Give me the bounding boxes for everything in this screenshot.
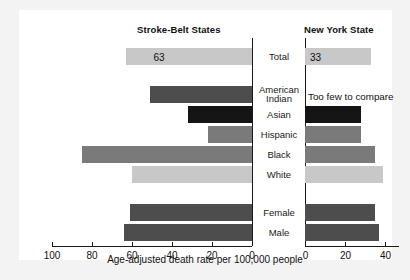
bar-right-asian xyxy=(305,106,361,123)
tick-left-60 xyxy=(132,242,133,246)
category-label-white: White xyxy=(253,170,305,180)
tick-left-40 xyxy=(172,242,173,246)
x-axis-right xyxy=(305,246,399,247)
bar-right-white xyxy=(305,166,383,183)
bar-right-female xyxy=(305,204,375,221)
tick-left-80 xyxy=(92,242,93,246)
bar-left-male xyxy=(124,224,252,241)
bar-value-right-total: 33 xyxy=(310,52,321,63)
category-label-line: Black xyxy=(253,150,305,160)
chart-plate: Stroke-Belt States New York State 100806… xyxy=(19,10,392,260)
category-label-total: Total xyxy=(253,52,305,62)
category-label-asian: Asian xyxy=(253,110,305,120)
tick-right-0 xyxy=(305,242,306,246)
category-label-line: White xyxy=(253,170,305,180)
bar-left-asian xyxy=(188,106,252,123)
tick-left-100 xyxy=(52,242,53,246)
tick-right-40 xyxy=(385,242,386,246)
category-label-hispanic: Hispanic xyxy=(253,130,305,140)
tick-left-20 xyxy=(212,242,213,246)
bar-left-american-indian xyxy=(150,86,252,103)
bar-right-black xyxy=(305,146,375,163)
x-axis-left xyxy=(52,246,252,247)
bar-right-hispanic xyxy=(305,126,361,143)
category-label-line: Male xyxy=(253,228,305,238)
category-label-line: Asian xyxy=(253,110,305,120)
bar-left-hispanic xyxy=(208,126,252,143)
category-label-line: Hispanic xyxy=(253,130,305,140)
category-label-male: Male xyxy=(253,228,305,238)
bar-left-total xyxy=(126,48,252,65)
bar-left-female xyxy=(130,204,252,221)
panel-title-new-york: New York State xyxy=(304,24,374,35)
category-label-female: Female xyxy=(253,208,305,218)
category-label-line: Indian xyxy=(253,94,305,103)
figure-canvas: Stroke-Belt States New York State 100806… xyxy=(0,0,410,280)
category-label-black: Black xyxy=(253,150,305,160)
bar-value-left-total: 63 xyxy=(154,52,165,63)
tick-left-0 xyxy=(252,242,253,246)
category-label-line: Total xyxy=(253,52,305,62)
category-label-line: Female xyxy=(253,208,305,218)
bar-right-male xyxy=(305,224,379,241)
x-axis-caption: Age-adjusted death rate per 100,000 peop… xyxy=(0,254,410,265)
tick-right-20 xyxy=(345,242,346,246)
too-few-note: Too few to compare xyxy=(308,91,394,102)
panel-title-stroke-belt: Stroke-Belt States xyxy=(137,24,221,35)
bar-left-white xyxy=(132,166,252,183)
category-label-american-indian: AmericanIndian xyxy=(253,85,305,104)
bar-left-black xyxy=(82,146,252,163)
